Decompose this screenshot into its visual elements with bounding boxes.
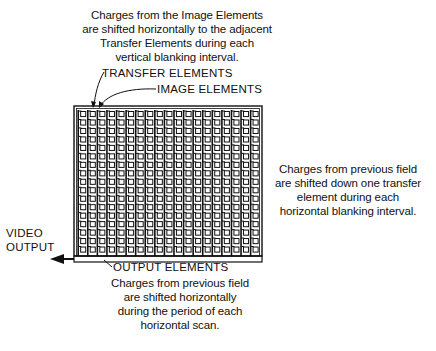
output-register (74, 256, 262, 262)
arrowhead-icon (91, 101, 96, 108)
video-output-arrow-icon (50, 254, 74, 264)
output-elements-leader (104, 260, 112, 267)
transfer-elements-leader (94, 72, 104, 106)
sensor-grid (74, 106, 262, 256)
image-elements-leader (100, 89, 156, 106)
ccd-interline-transfer-diagram (0, 0, 436, 351)
